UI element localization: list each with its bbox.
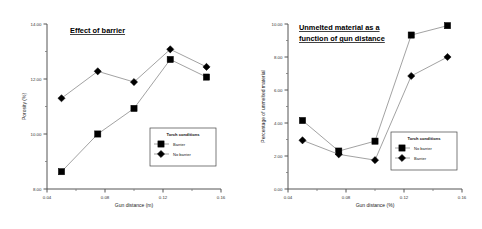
legend-marker-square bbox=[399, 145, 405, 151]
x-axis-title: Gun distance (m) bbox=[115, 202, 154, 208]
data-point-square bbox=[299, 117, 305, 123]
chart-title-line: Unmelted material as a bbox=[299, 23, 380, 32]
chart-title: Unmelted material as afunction of gun di… bbox=[299, 23, 385, 43]
porosity-chart: 8.0010.0012.0014.000.040.080.120.16Gun d… bbox=[0, 0, 241, 229]
data-series bbox=[58, 46, 210, 102]
y-tick-label: 10.00 bbox=[31, 132, 43, 137]
legend[interactable]: Torch conditionsBarrierNo barrier bbox=[150, 128, 216, 166]
figure-container: 8.0010.0012.0014.000.040.080.120.16Gun d… bbox=[0, 0, 482, 229]
chart-panel-right: 0.002.004.006.008.0010.000.040.080.120.1… bbox=[241, 0, 482, 229]
y-tick-label: 8.00 bbox=[33, 187, 42, 192]
y-tick-label: 8.00 bbox=[274, 55, 283, 60]
y-axis-title: Porosity (%) bbox=[21, 93, 27, 121]
legend-marker-square bbox=[158, 141, 164, 147]
legend-label: Barrier bbox=[414, 156, 427, 161]
x-tick-label: 0.16 bbox=[458, 195, 467, 200]
y-axis-ticks: 8.0010.0012.0014.00 bbox=[31, 22, 48, 192]
chart-title-line: Effect of barrier bbox=[70, 26, 125, 35]
chart-title: Effect of barrier bbox=[70, 26, 125, 35]
data-point-square bbox=[58, 169, 64, 175]
legend-title: Torch conditions bbox=[167, 132, 201, 137]
x-tick-label: 0.12 bbox=[159, 195, 168, 200]
unmelted-material-chart: 0.002.004.006.008.0010.000.040.080.120.1… bbox=[241, 0, 482, 229]
y-axis-title: Percentage of unmelted material bbox=[260, 70, 266, 142]
series-line bbox=[62, 49, 207, 98]
data-point-square bbox=[95, 131, 101, 137]
y-tick-label: 10.00 bbox=[272, 22, 284, 27]
data-point-square bbox=[167, 56, 173, 62]
x-axis-ticks: 0.040.080.120.16 bbox=[284, 189, 467, 200]
data-point-diamond bbox=[299, 137, 306, 144]
data-point-diamond bbox=[94, 68, 101, 75]
data-point-square bbox=[372, 138, 378, 144]
data-point-square bbox=[444, 23, 450, 29]
x-tick-label: 0.04 bbox=[284, 195, 293, 200]
data-point-diamond bbox=[444, 53, 451, 60]
data-point-diamond bbox=[408, 72, 415, 79]
data-point-diamond bbox=[58, 95, 65, 102]
chart-panel-left: 8.0010.0012.0014.000.040.080.120.16Gun d… bbox=[0, 0, 241, 229]
x-tick-label: 0.16 bbox=[217, 195, 226, 200]
data-point-diamond bbox=[371, 157, 378, 164]
data-point-square bbox=[131, 105, 137, 111]
x-axis-ticks: 0.040.080.120.16 bbox=[43, 189, 226, 200]
y-tick-label: 6.00 bbox=[274, 88, 283, 93]
x-axis-title: Gun distance (%) bbox=[356, 202, 395, 208]
legend[interactable]: Torch conditionsNo barrierBarrier bbox=[391, 132, 457, 170]
y-tick-label: 0.00 bbox=[274, 187, 283, 192]
y-tick-label: 2.00 bbox=[274, 154, 283, 159]
data-point-square bbox=[408, 32, 414, 38]
y-tick-label: 4.00 bbox=[274, 121, 283, 126]
y-tick-label: 14.00 bbox=[31, 22, 43, 27]
x-tick-label: 0.08 bbox=[342, 195, 351, 200]
chart-title-line: function of gun distance bbox=[299, 34, 385, 43]
data-point-square bbox=[203, 74, 209, 80]
y-axis-ticks: 0.002.004.006.008.0010.00 bbox=[272, 22, 289, 192]
y-tick-label: 12.00 bbox=[31, 77, 43, 82]
legend-title: Torch conditions bbox=[408, 136, 442, 141]
legend-label: No barrier bbox=[414, 146, 432, 151]
legend-label: No barrier bbox=[173, 152, 191, 157]
data-point-diamond bbox=[203, 63, 210, 70]
x-tick-label: 0.12 bbox=[400, 195, 409, 200]
legend-label: Barrier bbox=[173, 142, 186, 147]
x-tick-label: 0.08 bbox=[101, 195, 110, 200]
x-tick-label: 0.04 bbox=[43, 195, 52, 200]
